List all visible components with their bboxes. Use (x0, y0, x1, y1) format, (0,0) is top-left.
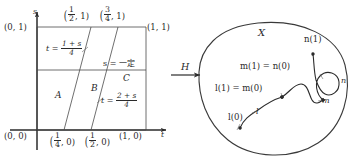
corner-label-bottom-right: (1, 0) (119, 132, 142, 141)
equation-fraction: 1 + s 4 (61, 40, 82, 57)
top-label-tail: , 1) (111, 12, 125, 21)
equation-right-slant: t = 2 + s 4 (101, 93, 137, 110)
corner-label-top-right: (1, 1) (147, 23, 170, 32)
open-paren: ( (100, 11, 103, 21)
node-label-l1-m0: l(1) = m(0) (215, 84, 262, 93)
path-n-curve (313, 54, 339, 100)
node-label-n1: n(1) (304, 35, 322, 44)
open-paren: ( (50, 137, 53, 147)
region-label-b: B (91, 84, 98, 93)
fraction-one-half: 1 2 (68, 6, 75, 24)
corner-label-bottom-left: (0, 0) (4, 132, 27, 141)
open-paren: ( (64, 11, 67, 21)
fraction-one-half: 1 2 (89, 132, 96, 150)
open-paren: ( (85, 137, 88, 147)
bottom-label-tail: , 0) (61, 138, 75, 147)
bottom-label-quarter-zero: ( 1 4 , 0) (49, 133, 75, 151)
slant-line-right (91, 27, 118, 130)
region-label-c: C (123, 74, 130, 83)
fraction-three-quarters: 3 4 (104, 6, 111, 24)
path-label-n: n (341, 77, 346, 85)
left-axes (10, 12, 166, 150)
bottom-label-half-zero: ( 1 2 , 0) (84, 133, 110, 151)
constant-s-label: s = 一定 (103, 60, 135, 68)
path-label-l: l (256, 108, 259, 116)
top-label-tail: , 1) (75, 12, 89, 21)
node-label-l0: l(0) (228, 113, 243, 122)
fraction-one-quarter: 1 4 (54, 132, 61, 150)
equation-fraction: 2 + s 4 (116, 92, 137, 109)
figure-root: s t (0, 1) (0, 0) (1, 1) (1, 0) ( 1 2 , … (0, 0, 356, 168)
path-label-m: m (322, 97, 330, 105)
top-label-half-one: ( 1 2 , 1) (63, 7, 89, 25)
s-axis-label: s (33, 8, 37, 16)
equation-left-slant: t = 1 + s 4 (46, 41, 82, 58)
leader-l1m0 (281, 93, 282, 96)
corner-label-top-left: (0, 1) (4, 23, 27, 32)
left-leaders (82, 47, 103, 103)
region-label-a: A (55, 91, 62, 100)
path-l-curve (240, 97, 282, 128)
space-X-label: X (258, 28, 265, 38)
leader-l0 (237, 124, 240, 130)
bottom-label-tail: , 0) (96, 138, 110, 147)
node-label-m1-n0: m(1) = n(0) (240, 62, 290, 71)
equation-lhs: t = (101, 96, 113, 105)
equation-lhs: t = (46, 44, 58, 53)
top-label-threequarter-one: ( 3 4 , 1) (99, 7, 125, 25)
map-arrow-label: H (181, 62, 189, 72)
t-axis-label: t (161, 131, 164, 139)
